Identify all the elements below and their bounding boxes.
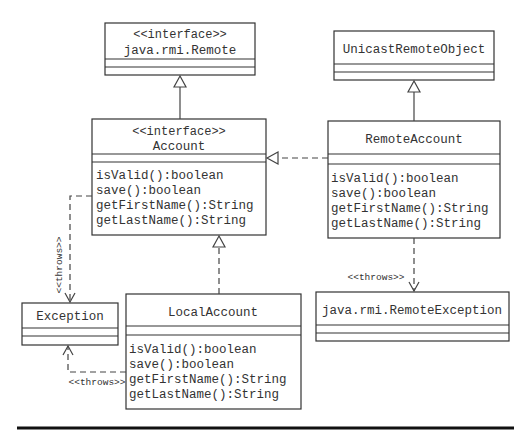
method-get-last-name: getLastName():String (129, 388, 279, 402)
class-remote-account: RemoteAccount isValid():boolean save():b… (328, 121, 500, 238)
method-save: save():boolean (331, 187, 436, 201)
uml-class-diagram: <<interface>> java.rmi.Remote UnicastRem… (0, 0, 529, 437)
class-name: java.rmi.Remote (124, 44, 237, 58)
hollow-triangle-arrow-icon (408, 81, 420, 92)
method-save: save():boolean (129, 358, 234, 372)
hollow-triangle-arrow-icon (174, 76, 186, 87)
class-name: java.rmi.RemoteException (322, 304, 502, 318)
class-local-account: LocalAccount isValid():boolean save():bo… (126, 294, 301, 409)
dependency-localaccount-exception: <<throws>> (63, 346, 126, 388)
class-exception: Exception (22, 303, 118, 345)
hollow-triangle-arrow-icon (267, 152, 278, 164)
method-is-valid: isValid():boolean (96, 169, 224, 183)
edge-line (70, 196, 92, 302)
stereotype-label: <<interface>> (132, 125, 226, 139)
method-is-valid: isValid():boolean (129, 343, 257, 357)
method-get-first-name: getFirstName():String (96, 199, 254, 213)
throws-label: <<throws>> (347, 272, 404, 283)
method-get-last-name: getLastName():String (331, 217, 481, 231)
dependency-account-exception: <<throws>> (54, 196, 92, 302)
throws-label: <<throws>> (68, 377, 125, 388)
class-name: Account (153, 140, 206, 154)
generalization-remoteaccount-unicast (408, 81, 420, 121)
class-account: <<interface>> Account isValid():boolean … (92, 119, 266, 235)
method-save: save():boolean (96, 184, 201, 198)
throws-label: <<throws>> (54, 236, 65, 293)
class-java-rmi-remote-exception: java.rmi.RemoteException (316, 292, 509, 341)
generalization-account-remote (174, 76, 186, 119)
realization-localaccount-account (213, 236, 225, 294)
realization-remoteaccount-account (267, 152, 328, 164)
class-name: RemoteAccount (365, 133, 463, 147)
stereotype-label: <<interface>> (133, 28, 227, 42)
class-java-rmi-remote: <<interface>> java.rmi.Remote (105, 23, 255, 75)
method-is-valid: isValid():boolean (331, 172, 459, 186)
hollow-triangle-arrow-icon (213, 236, 225, 247)
method-get-first-name: getFirstName():String (129, 373, 287, 387)
dependency-remoteaccount-remoteexception: <<throws>> (347, 238, 419, 291)
class-unicast-remote-object: UnicastRemoteObject (334, 31, 494, 80)
method-get-last-name: getLastName():String (96, 214, 246, 228)
class-name: LocalAccount (168, 306, 258, 320)
class-name: UnicastRemoteObject (343, 43, 486, 57)
edge-line (68, 346, 126, 372)
method-get-first-name: getFirstName():String (331, 202, 489, 216)
class-name: Exception (36, 310, 104, 324)
